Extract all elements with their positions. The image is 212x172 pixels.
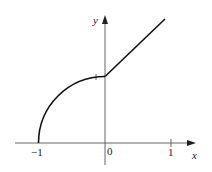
x-axis-arrow-icon: [187, 140, 196, 146]
y-axis-label: y: [92, 14, 98, 26]
origin-label: 0: [107, 145, 113, 157]
x-tick-label-one: 1: [168, 146, 174, 158]
quarter-circle-curve: [39, 77, 106, 144]
x-axis-label: x: [191, 149, 197, 161]
function-graph: y x −1 0 1: [0, 0, 212, 172]
y-axis-arrow-icon: [102, 15, 108, 24]
linear-segment: [105, 19, 165, 77]
x-tick-label-minus-one: −1: [31, 146, 43, 158]
